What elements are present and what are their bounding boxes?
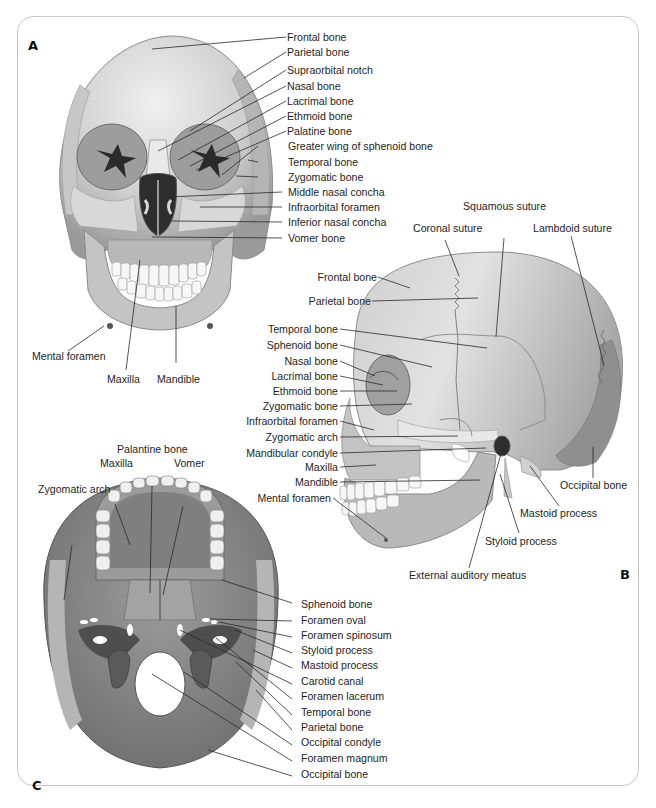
panel-letter-b: B [620,567,630,582]
label-b-maxilla: Maxilla [305,461,338,473]
label-b-styloid-process: Styloid process [485,535,557,547]
label-b-coronal-suture: Coronal suture [413,222,483,234]
label-c-carotid-canal: Carotid canal [301,675,363,687]
label-a-supraorbital-notch: Supraorbital notch [287,64,373,76]
label-b-nasal-bone: Nasal bone [284,355,338,367]
skull-anterior [60,36,273,330]
label-b-parietal-bone: Parietal bone [309,295,371,307]
label-a-mental-foramen: Mental foramen [32,350,106,362]
label-a-mandible: Mandible [157,373,200,385]
skull-inferior [44,476,278,768]
label-c-foramen-spinosum: Foramen spinosum [301,629,392,641]
label-b-infraorbital-foramen: Infraorbital foramen [246,415,338,427]
label-b-external-auditory-meatus: External auditory meatus [409,569,526,581]
label-a-palatine-bone: Palatine bone [287,125,352,137]
label-b-lacrimal-bone: Lacrimal bone [271,370,338,382]
label-b-zygomatic-arch: Zygomatic arch [266,431,338,443]
label-b-squamous-suture: Squamous suture [463,200,546,212]
label-a-zygomatic-bone: Zygomatic bone [288,171,363,183]
label-c-occipital-condyle: Occipital condyle [301,736,381,748]
label-b-zygomatic-bone: Zygomatic bone [263,400,338,412]
label-c-foramen-magnum: Foramen magnum [301,752,388,764]
label-a-vomer-bone: Vomer bone [288,232,345,244]
label-b-mandible: Mandible [295,476,338,488]
label-a-frontal-bone: Frontal bone [287,31,346,43]
label-b-mandibular-condyle: Mandibular condyle [246,447,338,459]
skull-lateral [340,252,623,548]
label-b-sphenoid-bone: Sphenoid bone [267,339,338,351]
label-c-foramen-lacerum: Foramen lacerum [301,690,384,702]
label-c-maxilla: Maxilla [100,457,133,469]
label-b-mastoid-process: Mastoid process [520,507,597,519]
label-a-greater-wing-sphenoid: Greater wing of sphenoid bone [288,140,433,152]
label-c-sphenoid-bone: Sphenoid bone [301,598,372,610]
label-b-mental-foramen: Mental foramen [257,492,331,504]
label-a-inferior-nasal-concha: Inferior nasal concha [288,216,386,228]
label-c-mastoid-process: Mastoid process [301,659,378,671]
label-c-styloid-process: Styloid process [301,644,373,656]
label-a-maxilla: Maxilla [107,373,140,385]
label-a-nasal-bone: Nasal bone [287,80,341,92]
panel-letter-c: C [32,778,42,793]
label-a-temporal-bone: Temporal bone [288,156,358,168]
label-b-occipital-bone: Occipital bone [560,479,627,491]
label-a-lacrimal-bone: Lacrimal bone [287,95,354,107]
label-c-foramen-oval: Foramen oval [301,614,366,626]
label-b-frontal-bone: Frontal bone [318,271,377,283]
label-c-palantine-bone: Palantine bone [117,443,188,455]
label-c-occipital-bone: Occipital bone [301,768,368,780]
label-c-zygomatic-arch: Zygomatic arch [38,483,110,495]
panel-letter-a: A [28,38,38,53]
label-c-temporal-bone: Temporal bone [301,706,371,718]
label-c-vomer: Vomer [174,457,205,469]
label-a-parietal-bone: Parietal bone [287,46,349,58]
label-b-lambdoid-suture: Lambdoid suture [533,222,612,234]
label-c-parietal-bone: Parietal bone [301,721,363,733]
label-a-infraorbital-foramen: Infraorbital foramen [288,201,380,213]
label-a-middle-nasal-concha: Middle nasal concha [288,186,385,198]
label-b-temporal-bone: Temporal bone [268,323,338,335]
label-a-ethmoid-bone: Ethmoid bone [287,110,352,122]
label-b-ethmoid-bone: Ethmoid bone [273,385,338,397]
